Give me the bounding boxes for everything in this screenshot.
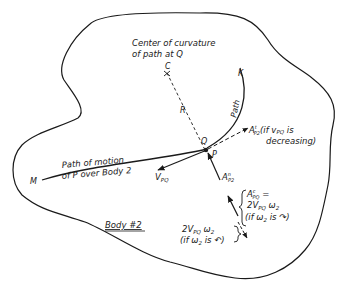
coriolis-line2: 2VPQ ω2 (247, 200, 280, 211)
point-c-label: C (165, 62, 171, 71)
coriolis-line3: (if ω2 is ↷) (245, 212, 290, 223)
coriolis-vector-up (228, 196, 238, 216)
velocity-label: VPQ (155, 172, 169, 183)
path-label: Path (229, 99, 242, 118)
coriolis-alt-line2: (if ω2 is ↶) (180, 235, 225, 246)
coriolis-line1: AcPQ = (246, 188, 269, 200)
center-label-line2: of path at Q (132, 49, 183, 59)
body-label: Body #2 (105, 220, 142, 230)
center-marker (164, 71, 170, 76)
point-p-label: P (212, 150, 217, 159)
coriolis-alt-line1: 2VPQ ω2 (182, 224, 215, 235)
normal-accel-label: AnP2 (221, 171, 234, 183)
coriolis-alt-brace (234, 226, 241, 242)
center-label-line1: Center of curvature (132, 38, 215, 48)
kinematics-diagram: Center of curvature of path at Q C R K P… (0, 0, 342, 287)
point-q-label: Q (201, 137, 207, 146)
radius-line (167, 73, 205, 150)
point-m-label: M (30, 177, 37, 186)
point-q-dot (204, 148, 208, 152)
point-k-label: K (238, 69, 244, 78)
tangential-accel-label: AtP2(if vPQ is (248, 124, 294, 136)
radius-label: R (180, 106, 186, 115)
tangential-note-line2: decreasing) (266, 136, 316, 146)
velocity-vector (158, 150, 207, 170)
